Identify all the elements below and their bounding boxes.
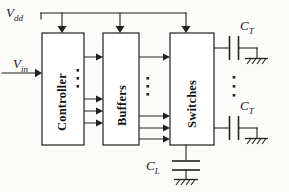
label-cl-sub: L	[155, 166, 160, 176]
circuit-diagram: Vdd Vin CT CT CL Controller Buffers Swit…	[0, 0, 289, 192]
label-vin-sub: in	[21, 64, 28, 74]
block-label-buffers: Buffers	[115, 52, 130, 126]
ctrl-buf-arrow-2	[96, 95, 103, 102]
buf-sw-arrow-2	[163, 112, 170, 119]
label-cl: CL	[146, 157, 160, 176]
label-vin-main: V	[13, 56, 21, 71]
cl-branch	[172, 145, 200, 185]
ct-ellipsis-icon	[233, 76, 236, 97]
ct-top-branch	[214, 36, 268, 64]
buf-sw-arrow-3	[163, 124, 170, 131]
vdd-arrow-switches	[182, 26, 191, 33]
ctrl-buf-arrow-3	[96, 107, 103, 114]
label-ct-top: CT	[240, 17, 254, 36]
label-ct-top-sub: T	[249, 26, 254, 36]
block-label-controller: Controller	[55, 47, 70, 131]
ctrl-buf-arrow-4	[96, 119, 103, 126]
label-ct-bottom: CT	[240, 97, 254, 116]
buf-sw-ellipsis-icon	[147, 77, 150, 96]
ground-symbol-cl	[174, 180, 198, 186]
vdd-arrow-buffers	[116, 26, 125, 33]
buf-sw-arrow-4	[163, 135, 170, 142]
vdd-arrow-controller	[58, 26, 67, 33]
ctrl-buf-arrow-1	[96, 53, 103, 60]
label-ct-bottom-main: C	[240, 98, 249, 113]
ground-symbol-ct-bottom	[245, 139, 268, 145]
label-vin: Vin	[13, 55, 28, 74]
label-cl-main: C	[146, 158, 155, 173]
ct-bottom-branch	[214, 116, 268, 144]
buf-sw-arrow-1	[163, 53, 170, 60]
ground-symbol-ct-top	[245, 59, 268, 65]
block-label-switches: Switches	[185, 50, 200, 128]
label-ct-bottom-sub: T	[249, 106, 254, 116]
label-vdd: Vdd	[6, 4, 23, 23]
label-vdd-sub: dd	[14, 13, 23, 23]
vdd-rail-group	[41, 13, 191, 33]
label-vdd-main: V	[6, 5, 14, 20]
buffers-to-switches-bus	[139, 53, 170, 142]
label-ct-top-main: C	[240, 18, 249, 33]
vin-arrow	[35, 69, 42, 77]
